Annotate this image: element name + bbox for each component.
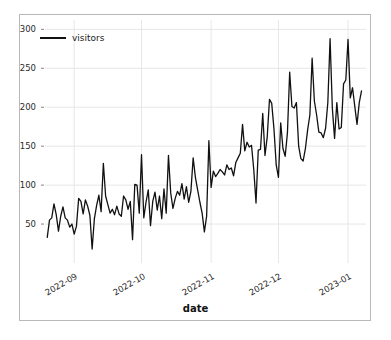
legend-label-visitors: visitors [72,33,104,43]
x-axis-title: date [0,303,391,314]
legend-line-swatch [40,37,66,39]
chart-legend: visitors [40,33,104,43]
y-tick-label: 250 [6,63,36,73]
y-tick-label: 150 [6,141,36,151]
y-tick-label: 50 [6,219,36,229]
y-tick-label: 300 [6,24,36,34]
y-tick-label: 100 [6,180,36,190]
figure-canvas: 50100150200250300 2022-092022-102022-112… [0,0,391,340]
y-tick-label: 200 [6,102,36,112]
